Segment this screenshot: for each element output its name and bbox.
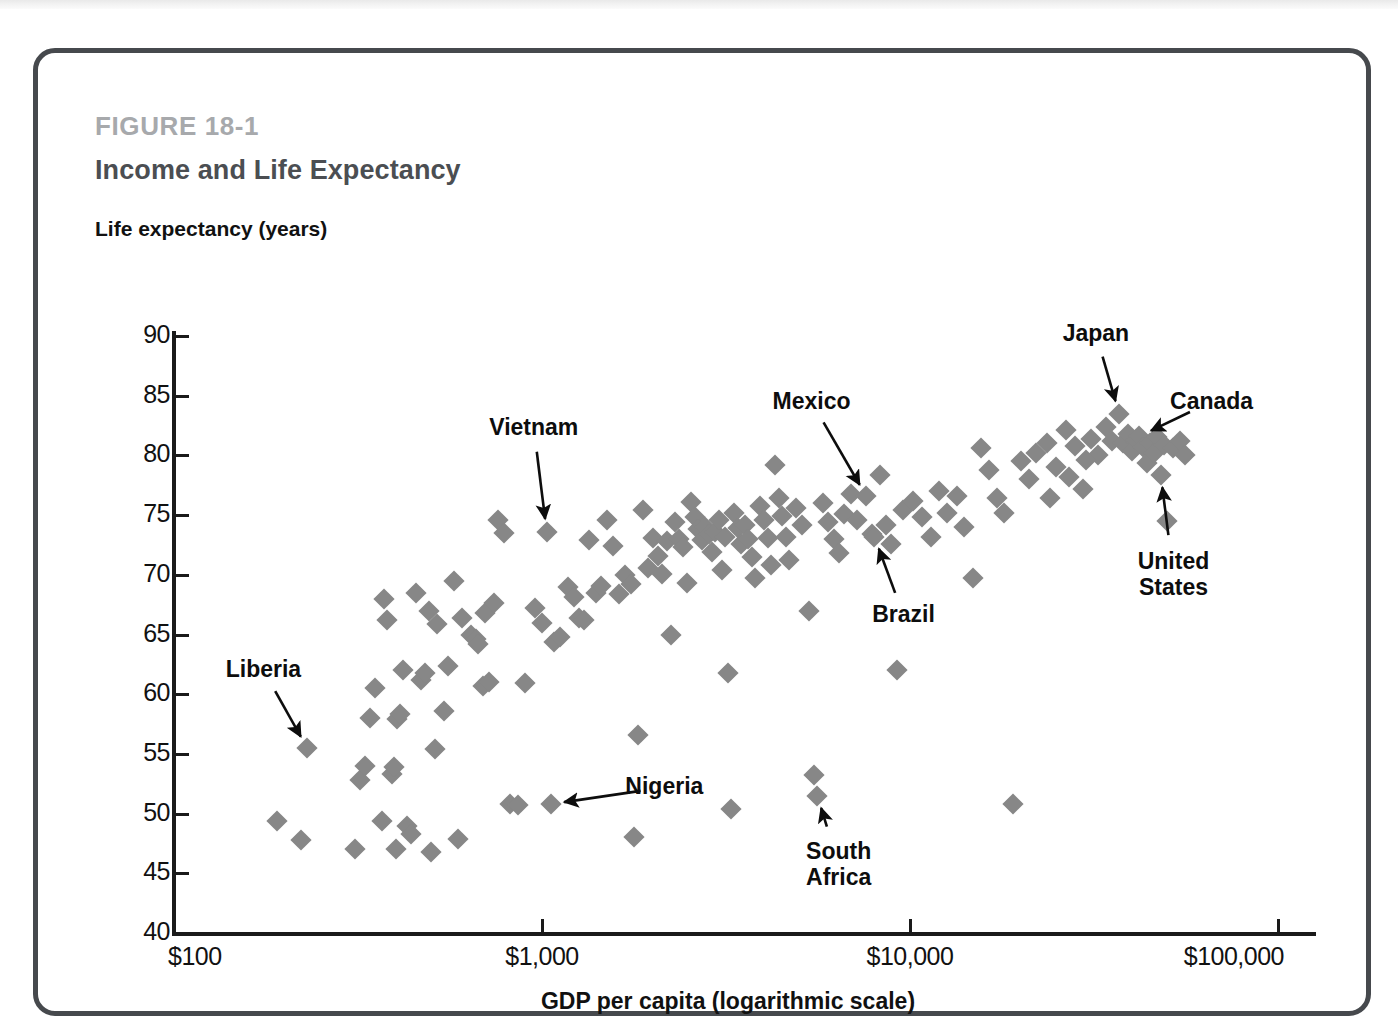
data-point xyxy=(541,793,562,814)
annotation-canada: Canada xyxy=(1170,389,1253,415)
data-point xyxy=(1157,510,1178,531)
annotation-line: Liberia xyxy=(226,657,301,683)
annotation-line: Canada xyxy=(1170,389,1253,415)
data-point xyxy=(946,485,967,506)
annotation-line: United xyxy=(1138,549,1210,575)
data-point xyxy=(359,707,380,728)
data-point xyxy=(962,568,983,589)
data-point xyxy=(1072,478,1093,499)
y-tick xyxy=(176,454,189,457)
annotation-united-states: UnitedStates xyxy=(1138,549,1210,601)
scan-edge-band xyxy=(0,0,1398,9)
annotation-arrow xyxy=(275,691,301,736)
annotation-arrow xyxy=(821,808,827,827)
annotation-line: Africa xyxy=(806,865,871,891)
data-point xyxy=(804,765,825,786)
y-tick xyxy=(176,574,189,577)
data-point xyxy=(297,737,318,758)
data-point xyxy=(717,662,738,683)
annotation-brazil: Brazil xyxy=(872,603,935,629)
data-point xyxy=(745,568,766,589)
data-point xyxy=(266,810,287,831)
data-point xyxy=(515,673,536,694)
data-point xyxy=(447,828,468,849)
y-tick xyxy=(176,872,189,875)
data-point xyxy=(677,573,698,594)
data-point xyxy=(978,459,999,480)
data-point xyxy=(433,700,454,721)
data-point xyxy=(720,798,741,819)
annotation-vietnam: Vietnam xyxy=(489,415,578,441)
data-point xyxy=(365,678,386,699)
annotation-nigeria: Nigeria xyxy=(625,774,703,800)
data-point xyxy=(627,724,648,745)
annotation-mexico: Mexico xyxy=(773,389,851,415)
annotation-line: Nigeria xyxy=(625,774,703,800)
x-tick xyxy=(541,919,544,933)
y-axis-title: Life expectancy (years) xyxy=(95,217,327,241)
annotation-line: Brazil xyxy=(872,603,935,629)
data-point xyxy=(765,454,786,475)
data-point xyxy=(344,839,365,860)
data-point xyxy=(807,785,828,806)
annotation-arrow-group xyxy=(153,288,1303,938)
data-point xyxy=(660,624,681,645)
annotation-line: States xyxy=(1138,575,1210,601)
y-tick xyxy=(176,932,189,935)
data-point xyxy=(444,570,465,591)
y-tick-label: 65 xyxy=(110,619,170,648)
annotation-line: Japan xyxy=(1063,321,1129,347)
annotation-line: South xyxy=(806,839,871,865)
data-point xyxy=(886,660,907,681)
data-point xyxy=(624,827,645,848)
x-tick-label: $10,000 xyxy=(867,942,954,971)
data-point xyxy=(536,521,557,542)
figure-number: FIGURE 18-1 xyxy=(95,111,259,142)
data-point xyxy=(1039,488,1060,509)
data-point xyxy=(373,588,394,609)
data-point xyxy=(291,829,312,850)
annotation-japan: Japan xyxy=(1063,321,1129,347)
y-tick-label: 90 xyxy=(110,320,170,349)
data-point xyxy=(1018,469,1039,490)
y-tick xyxy=(176,395,189,398)
data-point xyxy=(406,582,427,603)
plot-area: 4045505560657075808590 $100$1,000$10,000… xyxy=(153,288,1303,938)
data-point xyxy=(970,438,991,459)
data-point xyxy=(870,464,891,485)
data-point xyxy=(779,550,800,571)
annotation-arrow xyxy=(1103,357,1116,401)
x-tick-label: $1,000 xyxy=(505,942,578,971)
data-point xyxy=(602,536,623,557)
y-tick xyxy=(176,693,189,696)
data-point xyxy=(936,502,957,523)
y-tick xyxy=(176,514,189,517)
data-point xyxy=(665,512,686,533)
data-point xyxy=(578,530,599,551)
x-tick xyxy=(1277,919,1280,933)
x-tick-label: $100,000 xyxy=(1184,942,1284,971)
figure-panel: FIGURE 18-1 Income and Life Expectancy L… xyxy=(33,48,1371,1016)
x-axis-title: GDP per capita (logarithmic scale) xyxy=(153,988,1303,1015)
data-point xyxy=(1108,403,1129,424)
y-tick xyxy=(176,753,189,756)
data-point xyxy=(421,841,442,862)
data-point xyxy=(1002,793,1023,814)
annotation-line: Vietnam xyxy=(489,415,578,441)
data-point xyxy=(775,526,796,547)
data-point xyxy=(424,739,445,760)
y-tick-label: 80 xyxy=(110,439,170,468)
y-tick-label: 50 xyxy=(110,798,170,827)
y-tick-label: 40 xyxy=(110,917,170,946)
annotation-line: Mexico xyxy=(773,389,851,415)
data-point xyxy=(953,516,974,537)
y-tick-label: 45 xyxy=(110,857,170,886)
annotation-liberia: Liberia xyxy=(226,657,301,683)
x-tick xyxy=(173,919,176,933)
data-point xyxy=(929,481,950,502)
figure-title: Income and Life Expectancy xyxy=(95,155,461,186)
data-point xyxy=(376,610,397,631)
data-point xyxy=(372,810,393,831)
data-point xyxy=(438,655,459,676)
x-axis-line xyxy=(172,932,1316,936)
